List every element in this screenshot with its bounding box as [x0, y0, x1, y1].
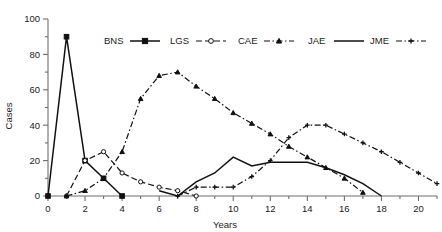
y-tick-label: 0: [35, 190, 40, 201]
data-point-plus: [194, 185, 199, 190]
data-point-triangle: [342, 176, 347, 180]
data-point-square: [64, 34, 69, 39]
x-tick-label: 0: [45, 203, 50, 214]
data-point-square: [142, 38, 147, 43]
data-point-plus: [212, 185, 217, 190]
legend-label-lgs: LGS: [170, 35, 189, 46]
data-point-triangle: [287, 144, 292, 148]
series-jme: [175, 123, 439, 198]
data-point-circle: [176, 189, 180, 193]
series-line-jae: [159, 157, 381, 196]
x-tick-label: 10: [228, 203, 239, 214]
series-line-cae: [67, 72, 363, 196]
legend-item-jae: JAE: [308, 35, 364, 46]
y-tick-label: 100: [24, 13, 40, 24]
y-tick-label: 60: [29, 84, 40, 95]
legend-label-jae: JAE: [308, 35, 325, 46]
x-axis-title: Years: [213, 219, 237, 230]
y-axis: 020406080100: [24, 13, 48, 201]
data-point-plus: [408, 38, 413, 43]
x-tick-label: 6: [156, 203, 161, 214]
legend-item-lgs: LGS: [170, 35, 226, 46]
data-point-plus: [324, 123, 329, 128]
data-point-triangle: [138, 96, 143, 100]
legend-item-cae: CAE: [238, 35, 294, 46]
data-point-triangle: [249, 121, 254, 125]
chart-canvas: 020406080100 02468101214161820 BNSLGSCAE…: [0, 0, 442, 232]
series-jae: [159, 157, 381, 196]
x-axis: 02468101214161820: [45, 196, 437, 214]
data-point-triangle: [268, 132, 273, 136]
y-axis-title: Cases: [3, 102, 14, 129]
data-point-plus: [361, 141, 366, 146]
data-point-triangle: [175, 70, 180, 74]
data-point-square: [46, 194, 51, 199]
legend-label-cae: CAE: [238, 35, 258, 46]
x-tick-label: 18: [376, 203, 387, 214]
series-line-jme: [178, 125, 437, 196]
data-point-circle: [101, 150, 105, 154]
series-bns: [46, 34, 125, 198]
data-point-plus: [342, 132, 347, 137]
x-tick-label: 12: [265, 203, 276, 214]
data-point-triangle: [194, 84, 199, 88]
y-tick-label: 20: [29, 155, 40, 166]
y-tick-label: 80: [29, 49, 40, 60]
data-point-triangle: [305, 155, 310, 159]
x-tick-label: 4: [119, 203, 124, 214]
x-tick-label: 16: [339, 203, 350, 214]
legend-item-bns: BNS: [104, 35, 160, 46]
data-point-plus: [379, 149, 384, 154]
data-point-circle: [194, 194, 198, 198]
data-point-circle: [83, 159, 87, 163]
x-tick-label: 8: [194, 203, 199, 214]
legend-label-jme: JME: [370, 35, 389, 46]
legend-item-jme: JME: [370, 35, 426, 46]
x-tick-label: 14: [302, 203, 313, 214]
data-point-triangle: [231, 111, 236, 115]
line-chart: 020406080100 02468101214161820 BNSLGSCAE…: [0, 0, 442, 232]
data-point-triangle: [361, 190, 366, 194]
series-group: [46, 34, 440, 198]
data-point-triangle: [157, 73, 162, 77]
series-line-bns: [48, 37, 122, 196]
data-point-circle: [157, 185, 161, 189]
data-point-circle: [209, 39, 214, 44]
chart-legend: BNSLGSCAEJAEJME: [104, 35, 426, 46]
data-point-square: [120, 194, 125, 199]
data-point-triangle: [276, 38, 281, 43]
data-point-triangle: [120, 149, 125, 153]
series-cae: [64, 70, 365, 198]
data-point-circle: [120, 171, 124, 175]
y-tick-label: 40: [29, 120, 40, 131]
x-tick-label: 20: [413, 203, 424, 214]
data-point-circle: [139, 180, 143, 184]
x-tick-label: 2: [82, 203, 87, 214]
legend-label-bns: BNS: [104, 35, 124, 46]
